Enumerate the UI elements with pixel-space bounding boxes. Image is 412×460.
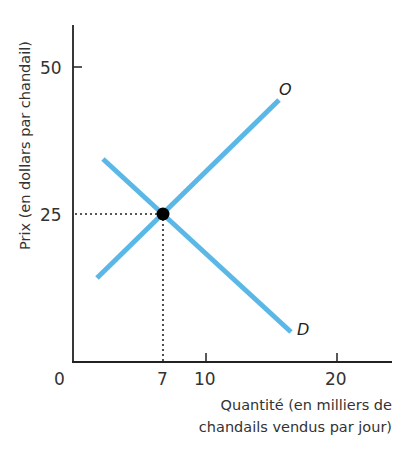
supply-demand-chart: O D 50 25 0 7 10 20 Quantité (en millier… [0, 0, 412, 460]
x-tick-label-10: 10 [194, 369, 216, 389]
supply-label: O [279, 80, 292, 99]
x-tick-label-0: 0 [54, 369, 65, 389]
y-tick-label-25: 25 [40, 205, 62, 225]
y-tick-label-50: 50 [40, 58, 62, 78]
supply-curve [97, 100, 279, 278]
x-axis-title-line2: chandails vendus par jour) [199, 419, 392, 435]
x-axis-title-line1: Quantité (en milliers de [221, 397, 392, 413]
equilibrium-point [157, 208, 170, 221]
x-tick-label-7: 7 [157, 369, 168, 389]
x-tick-label-20: 20 [325, 369, 347, 389]
y-axis-title: Prix (en dollars par chandail) [17, 41, 33, 250]
demand-label: D [297, 320, 309, 339]
